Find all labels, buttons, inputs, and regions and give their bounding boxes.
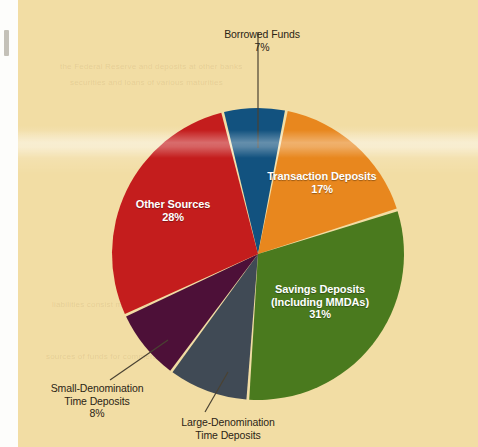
label-transaction-deposits: Transaction Deposits 17% <box>252 170 392 195</box>
label-large-denomination-text-line2: Time Deposits <box>148 429 308 442</box>
label-large-denomination-text: Large-Denomination <box>148 416 308 429</box>
label-small-denomination-text-line2: Time Deposits <box>22 395 172 408</box>
label-other-sources-percent: 28% <box>112 211 234 224</box>
label-transaction-deposits-text: Transaction Deposits <box>252 170 392 183</box>
label-borrowed-funds-text: Borrowed Funds <box>182 28 342 41</box>
label-other-sources: Other Sources 28% <box>112 198 234 223</box>
label-borrowed-funds: Borrowed Funds 7% <box>182 28 342 53</box>
chart-page: the Federal Reserve and deposits at othe… <box>0 0 478 447</box>
label-borrowed-funds-percent: 7% <box>182 41 342 54</box>
label-savings-deposits-percent: 31% <box>256 308 384 321</box>
label-savings-deposits: Savings Deposits (Including MMDAs) 31% <box>256 283 384 321</box>
label-large-denomination-time-deposits: Large-Denomination Time Deposits <box>148 416 308 441</box>
label-small-denomination-time-deposits: Small-Denomination Time Deposits 8% <box>22 382 172 420</box>
pie-slices <box>112 108 404 400</box>
label-small-denomination-text: Small-Denomination <box>22 382 172 395</box>
pie-chart <box>0 0 478 447</box>
label-transaction-deposits-percent: 17% <box>252 183 392 196</box>
label-savings-deposits-text: Savings Deposits <box>256 283 384 296</box>
label-other-sources-text: Other Sources <box>112 198 234 211</box>
label-savings-deposits-text-line2: (Including MMDAs) <box>256 296 384 309</box>
